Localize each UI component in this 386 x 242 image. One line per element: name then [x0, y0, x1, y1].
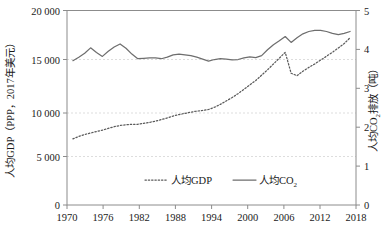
legend-label-co2: 人均CO2 — [259, 175, 298, 189]
y-axis-right-ticks — [356, 11, 360, 206]
legend: 人均GDP 人均CO2 — [145, 175, 298, 189]
x-axis-labels: 1970 1976 1982 1988 1994 2000 2006 2012 … — [57, 212, 367, 223]
y2tick-label-1: 1 — [364, 161, 369, 172]
xtick-label-2018: 2018 — [346, 212, 367, 223]
ytick-label-20000: 20 000 — [31, 6, 60, 17]
y-axis-left-title: 人均GDP（PPP，2017年美元） — [4, 38, 16, 178]
ytick-label-0: 0 — [55, 200, 60, 211]
ytick-label-5000: 5 000 — [36, 152, 60, 163]
xtick-label-2012: 2012 — [310, 212, 331, 223]
x-axis-ticks — [67, 205, 356, 209]
y-axis-left-ticks — [63, 11, 67, 206]
xtick-label-1982: 1982 — [129, 212, 150, 223]
y-axis-right-title: 人均CO2排放（吨） — [367, 64, 382, 152]
y-axis-right-title-part1: 人均CO — [368, 117, 379, 152]
chart-container: 人均GDP（PPP，2017年美元） 人均CO2排放（吨） — [0, 0, 386, 242]
series-line-gdp — [73, 38, 350, 139]
y2tick-label-0: 0 — [364, 200, 369, 211]
y2tick-label-3: 3 — [364, 83, 369, 94]
ytick-label-15000: 15 000 — [31, 55, 60, 66]
xtick-label-1976: 1976 — [93, 212, 114, 223]
line-chart: 人均GDP（PPP，2017年美元） 人均CO2排放（吨） — [0, 0, 386, 242]
series-line-co2 — [73, 30, 350, 61]
xtick-label-1970: 1970 — [57, 212, 78, 223]
y2tick-label-4: 4 — [364, 44, 370, 55]
xtick-label-1988: 1988 — [165, 212, 186, 223]
xtick-label-1994: 1994 — [201, 212, 223, 223]
svg-text:人均CO2排放（吨）: 人均CO2排放（吨） — [367, 64, 382, 152]
xtick-label-2006: 2006 — [273, 212, 294, 223]
xtick-label-2000: 2000 — [237, 212, 258, 223]
ytick-label-10000: 10 000 — [31, 108, 60, 119]
legend-label-gdp: 人均GDP — [171, 175, 212, 186]
y-axis-left-labels: 20 000 15 000 10 000 5 000 0 — [31, 6, 60, 212]
y2tick-label-5: 5 — [364, 6, 369, 17]
y2tick-label-2: 2 — [364, 122, 369, 133]
